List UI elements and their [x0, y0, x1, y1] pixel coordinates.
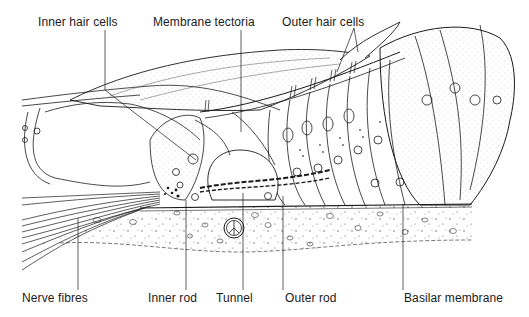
label-inner-rod: Inner rod — [148, 291, 197, 305]
label-basilar-membrane: Basilar membrane — [404, 291, 503, 305]
label-outer-hair-cells: Outer hair cells — [282, 15, 364, 29]
inner-hair-cell-region — [150, 115, 204, 200]
label-membrane-tectoria: Membrane tectoria — [153, 15, 255, 29]
tectorial-membrane — [70, 22, 400, 111]
diagram-drawing — [0, 0, 529, 317]
label-inner-hair-cells: Inner hair cells — [38, 15, 118, 29]
label-tunnel: Tunnel — [216, 291, 253, 305]
organ-of-corti-diagram: Inner hair cells Membrane tectoria Outer… — [0, 0, 529, 317]
label-outer-rod: Outer rod — [285, 291, 337, 305]
label-nerve-fibres: Nerve fibres — [22, 291, 88, 305]
basilar-layer — [22, 204, 472, 252]
